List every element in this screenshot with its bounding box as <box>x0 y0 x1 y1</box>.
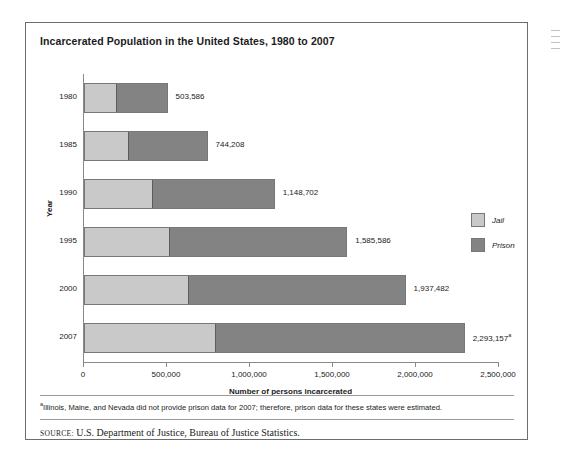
legend-item-prison[interactable]: Prison <box>471 238 515 252</box>
bar-segment-jail[interactable] <box>85 228 169 256</box>
legend-label: Prison <box>492 241 515 250</box>
legend-label: Jail <box>492 216 504 225</box>
x-tick-label: 2,500,000 <box>480 370 516 379</box>
bar-stack[interactable] <box>84 131 208 161</box>
bar-row: 1980503,586 <box>83 83 498 113</box>
bar-segment-prison[interactable] <box>152 180 273 208</box>
bar-stack[interactable] <box>84 227 347 257</box>
bar-segment-prison[interactable] <box>169 228 346 256</box>
bar-row: 19951,585,586 <box>83 227 498 257</box>
bar-segment-jail[interactable] <box>85 180 152 208</box>
plot-area: Year 1980503,5861985744,20819901,148,702… <box>83 74 498 362</box>
bar-year-label: 1985 <box>45 140 77 149</box>
bar-segment-prison[interactable] <box>188 276 405 304</box>
edge-mark <box>551 36 560 37</box>
bar-segment-jail[interactable] <box>85 276 188 304</box>
bar-stack[interactable] <box>84 179 275 209</box>
bar-year-label: 2007 <box>45 332 77 341</box>
bar-value-label: 744,208 <box>216 140 245 149</box>
bar-segment-prison[interactable] <box>116 84 167 112</box>
x-tick <box>166 362 167 367</box>
bar-value-label: 1,937,482 <box>414 284 450 293</box>
bar-stack[interactable] <box>84 83 168 113</box>
x-tick-label: 1,500,000 <box>314 370 350 379</box>
bar-segment-prison[interactable] <box>128 132 207 160</box>
bar-year-label: 1995 <box>45 236 77 245</box>
legend-swatch <box>471 213 485 227</box>
page-edge-marks <box>551 30 563 54</box>
x-tick-label: 500,000 <box>152 370 181 379</box>
bar-segment-jail[interactable] <box>85 84 116 112</box>
bar-year-label: 1990 <box>45 188 77 197</box>
footnote-marker: a <box>508 332 511 338</box>
edge-mark <box>551 30 560 31</box>
y-axis-line <box>83 74 84 362</box>
y-axis-title: Year <box>45 200 54 217</box>
figure-frame: Incarcerated Population in the United St… <box>25 22 528 440</box>
legend-swatch <box>471 238 485 252</box>
x-tick <box>83 362 84 367</box>
footnote: aIllinois, Maine, and Nevada did not pro… <box>40 401 518 412</box>
x-tick-label: 0 <box>81 370 85 379</box>
bar-row: 20001,937,482 <box>83 275 498 305</box>
x-tick <box>415 362 416 367</box>
source-label: SOURCE: <box>40 429 74 438</box>
bar-stack[interactable] <box>84 323 465 353</box>
bar-value-label: 2,293,157a <box>473 332 512 343</box>
bar-stack[interactable] <box>84 275 406 305</box>
x-axis-line <box>83 362 498 363</box>
edge-mark <box>551 42 560 43</box>
x-tick <box>332 362 333 367</box>
bar-row: 19901,148,702 <box>83 179 498 209</box>
legend-item-jail[interactable]: Jail <box>471 213 515 227</box>
bar-segment-jail[interactable] <box>85 132 128 160</box>
footnote-text: Illinois, Maine, and Nevada did not prov… <box>43 403 442 412</box>
x-tick <box>498 362 499 367</box>
bar-value-label: 1,148,702 <box>283 188 319 197</box>
bar-segment-prison[interactable] <box>215 324 464 352</box>
x-tick-label: 2,000,000 <box>397 370 433 379</box>
footnote-divider <box>40 395 514 396</box>
bar-value-label: 1,585,586 <box>355 236 391 245</box>
edge-mark <box>551 48 560 49</box>
source-line: SOURCE: U.S. Department of Justice, Bure… <box>40 427 300 438</box>
source-divider <box>40 419 514 420</box>
bar-year-label: 1980 <box>45 92 77 101</box>
bar-row: 20072,293,157a <box>83 323 498 353</box>
x-tick <box>249 362 250 367</box>
bar-year-label: 2000 <box>45 284 77 293</box>
bar-row: 1985744,208 <box>83 131 498 161</box>
x-tick-label: 1,000,000 <box>231 370 267 379</box>
bar-value-label: 503,586 <box>176 92 205 101</box>
bar-segment-jail[interactable] <box>85 324 215 352</box>
source-text: U.S. Department of Justice, Bureau of Ju… <box>76 427 300 438</box>
page-title: Incarcerated Population in the United St… <box>40 35 335 47</box>
legend: JailPrison <box>471 213 515 263</box>
